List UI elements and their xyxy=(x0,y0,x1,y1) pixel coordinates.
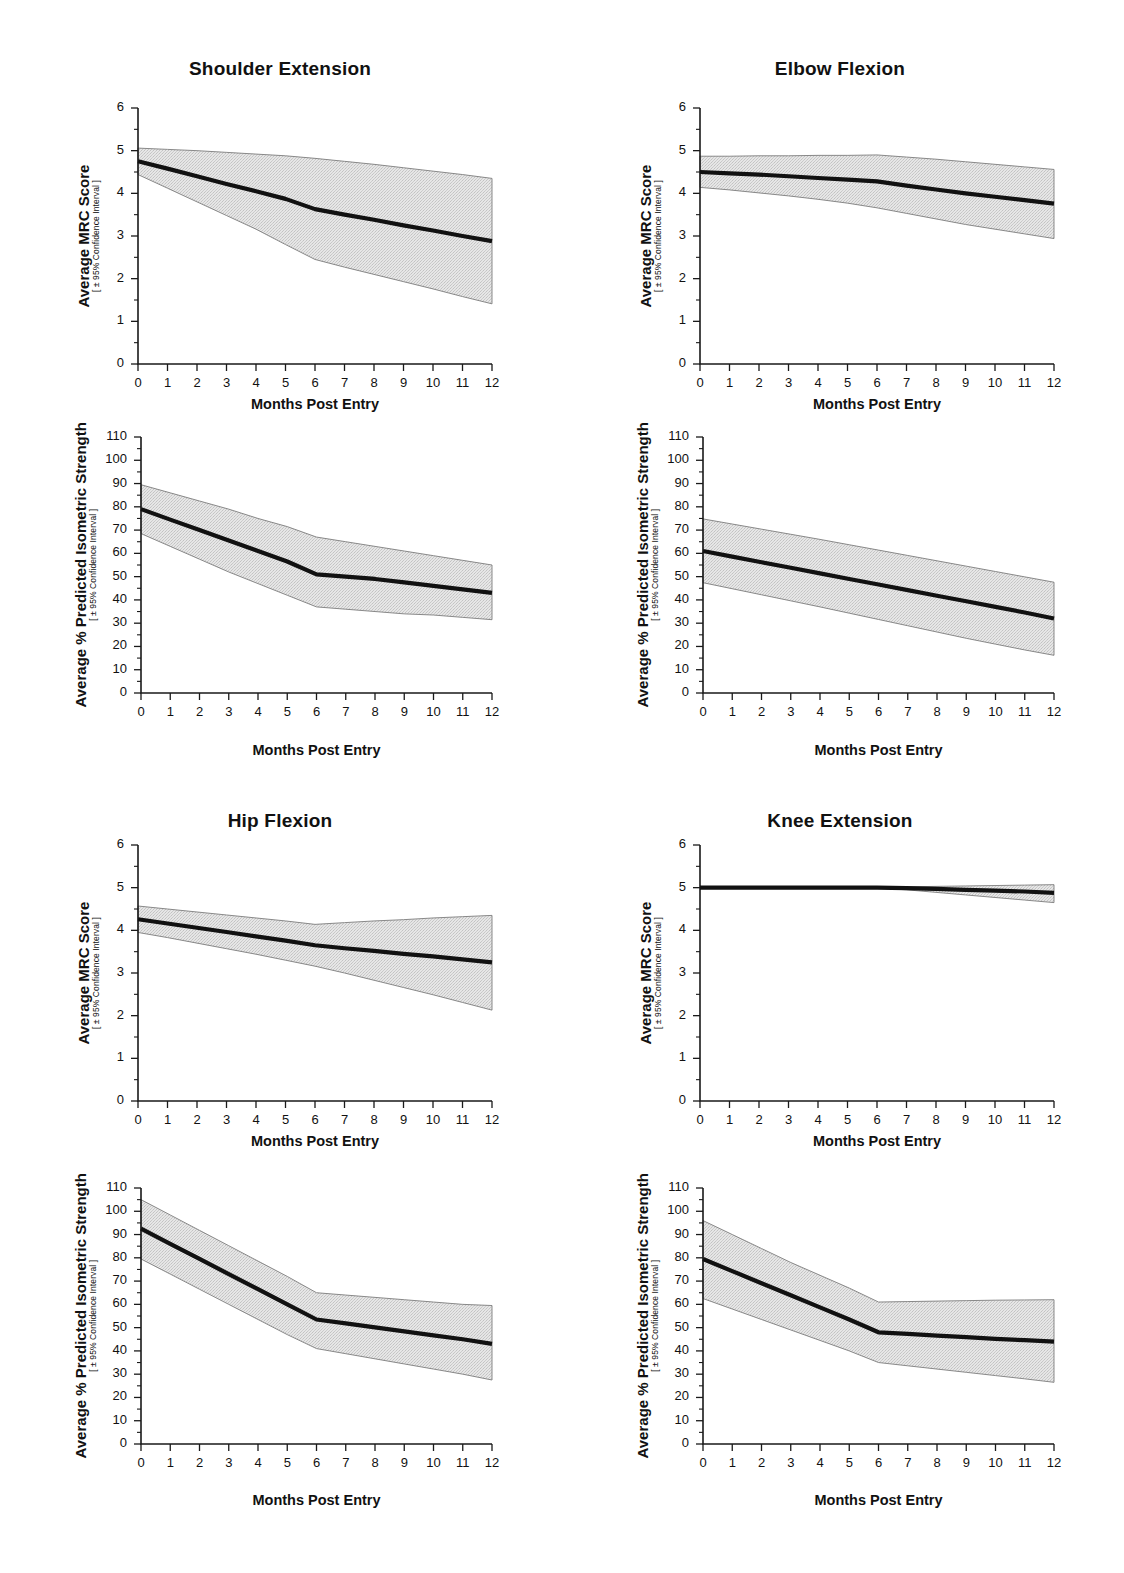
x-tick-label: 7 xyxy=(332,1112,358,1127)
y-axis-title-main: Average MRC Score xyxy=(76,902,92,1045)
y-tick-label: 100 xyxy=(655,1202,689,1217)
y-tick-label: 90 xyxy=(93,475,127,490)
x-tick-label: 2 xyxy=(187,1455,213,1470)
y-tick-label: 110 xyxy=(93,1179,127,1194)
x-tick-label: 10 xyxy=(420,1112,446,1127)
x-tick-label: 2 xyxy=(187,704,213,719)
x-tick-label: 0 xyxy=(125,1112,151,1127)
y-axis-title-main: Average MRC Score xyxy=(638,902,654,1045)
y-tick-label: 70 xyxy=(93,1272,127,1287)
y-tick-label: 110 xyxy=(93,428,127,443)
y-axis-title-knee-extension-mrc: Average MRC Score[ ± 95% Confidence Inte… xyxy=(638,902,663,1045)
x-tick-label: 1 xyxy=(719,704,745,719)
y-tick-label: 50 xyxy=(93,568,127,583)
confidence-band-elbow-flexion-strength xyxy=(703,519,1054,655)
x-tick-label: 8 xyxy=(362,704,388,719)
x-tick-label: 3 xyxy=(216,704,242,719)
y-tick-label: 6 xyxy=(90,99,124,114)
y-tick-label: 70 xyxy=(93,521,127,536)
y-axis-title-main: Average % Predicted Isometric Strength xyxy=(635,1173,651,1458)
y-tick-label: 0 xyxy=(93,684,127,699)
x-tick-label: 6 xyxy=(866,704,892,719)
y-tick-label: 100 xyxy=(655,451,689,466)
y-tick-label: 80 xyxy=(655,498,689,513)
x-tick-label: 12 xyxy=(1041,1455,1067,1470)
y-tick-label: 0 xyxy=(93,1435,127,1450)
y-tick-label: 40 xyxy=(93,591,127,606)
y-axis-title-sub: [ ± 95% Confidence Interval ] xyxy=(654,902,663,1045)
x-tick-label: 11 xyxy=(1012,1112,1038,1127)
x-tick-label: 9 xyxy=(391,1112,417,1127)
y-axis-title-sub: [ ± 95% Confidence Interval ] xyxy=(92,902,101,1045)
x-tick-label: 11 xyxy=(1012,704,1038,719)
x-tick-label: 12 xyxy=(479,1112,505,1127)
y-tick-label: 90 xyxy=(93,1226,127,1241)
x-tick-label: 3 xyxy=(214,1112,240,1127)
x-tick-label: 5 xyxy=(274,1455,300,1470)
x-tick-label: 4 xyxy=(245,1455,271,1470)
x-tick-label: 6 xyxy=(302,1112,328,1127)
x-tick-label: 8 xyxy=(923,1112,949,1127)
x-tick-label: 12 xyxy=(479,704,505,719)
confidence-band-hip-flexion-strength xyxy=(141,1200,492,1380)
y-tick-label: 5 xyxy=(652,879,686,894)
x-tick-label: 9 xyxy=(391,704,417,719)
y-tick-label: 100 xyxy=(93,451,127,466)
y-tick-label: 60 xyxy=(655,544,689,559)
confidence-band-shoulder-extension-strength xyxy=(141,485,492,620)
y-axis-title-main: Average MRC Score xyxy=(638,165,654,308)
y-tick-label: 30 xyxy=(655,614,689,629)
x-tick-label: 4 xyxy=(807,1455,833,1470)
y-tick-label: 10 xyxy=(655,1412,689,1427)
y-axis-title-sub: [ ± 95% Confidence Interval ] xyxy=(651,422,660,707)
figure-root: Shoulder ExtensionElbow FlexionHip Flexi… xyxy=(0,0,1124,1573)
y-tick-label: 1 xyxy=(90,1049,124,1064)
x-tick-label: 10 xyxy=(983,1455,1009,1470)
y-tick-label: 1 xyxy=(652,312,686,327)
y-axis-title-knee-extension-strength: Average % Predicted Isometric Strength[ … xyxy=(635,1173,660,1458)
x-tick-label: 3 xyxy=(778,1455,804,1470)
y-tick-label: 30 xyxy=(93,1365,127,1380)
y-tick-label: 60 xyxy=(93,544,127,559)
y-tick-label: 1 xyxy=(90,312,124,327)
x-tick-label: 8 xyxy=(924,704,950,719)
x-tick-label: 6 xyxy=(864,1112,890,1127)
chart-canvas-elbow-flexion-strength xyxy=(643,377,1114,753)
x-tick-label: 12 xyxy=(479,1455,505,1470)
chart-canvas-shoulder-extension-mrc xyxy=(78,48,552,424)
x-tick-label: 9 xyxy=(953,1112,979,1127)
y-axis-title-sub: [ ± 95% Confidence Interval ] xyxy=(89,1173,98,1458)
x-tick-label: 9 xyxy=(391,1455,417,1470)
y-axis-title-main: Average % Predicted Isometric Strength xyxy=(73,1173,89,1458)
y-tick-label: 80 xyxy=(655,1249,689,1264)
x-tick-label: 3 xyxy=(778,704,804,719)
chart-canvas-knee-extension-strength xyxy=(643,1128,1114,1504)
y-tick-label: 30 xyxy=(655,1365,689,1380)
y-tick-label: 20 xyxy=(655,637,689,652)
x-tick-label: 2 xyxy=(749,1455,775,1470)
y-tick-label: 60 xyxy=(93,1295,127,1310)
y-tick-label: 60 xyxy=(655,1295,689,1310)
x-tick-label: 6 xyxy=(304,704,330,719)
x-axis-title-knee-extension-strength: Months Post Entry xyxy=(703,1492,1054,1508)
x-tick-label: 8 xyxy=(924,1455,950,1470)
chart-canvas-hip-flexion-mrc xyxy=(78,785,552,1161)
x-tick-label: 3 xyxy=(216,1455,242,1470)
x-tick-label: 7 xyxy=(333,704,359,719)
x-tick-label: 5 xyxy=(835,1112,861,1127)
x-tick-label: 1 xyxy=(157,1455,183,1470)
x-tick-label: 2 xyxy=(746,1112,772,1127)
y-axis-title-hip-flexion-mrc: Average MRC Score[ ± 95% Confidence Inte… xyxy=(76,902,101,1045)
y-tick-label: 100 xyxy=(93,1202,127,1217)
x-tick-label: 12 xyxy=(1041,704,1067,719)
x-tick-label: 7 xyxy=(333,1455,359,1470)
x-tick-label: 8 xyxy=(361,1112,387,1127)
y-axis-title-sub: [ ± 95% Confidence Interval ] xyxy=(92,165,101,308)
x-tick-label: 9 xyxy=(953,1455,979,1470)
x-tick-label: 1 xyxy=(157,704,183,719)
y-tick-label: 0 xyxy=(652,1092,686,1107)
y-axis-title-elbow-flexion-mrc: Average MRC Score[ ± 95% Confidence Inte… xyxy=(638,165,663,308)
axis-lines-knee-extension-mrc xyxy=(700,845,1054,1101)
y-axis-title-main: Average % Predicted Isometric Strength xyxy=(635,422,651,707)
y-tick-label: 20 xyxy=(655,1388,689,1403)
